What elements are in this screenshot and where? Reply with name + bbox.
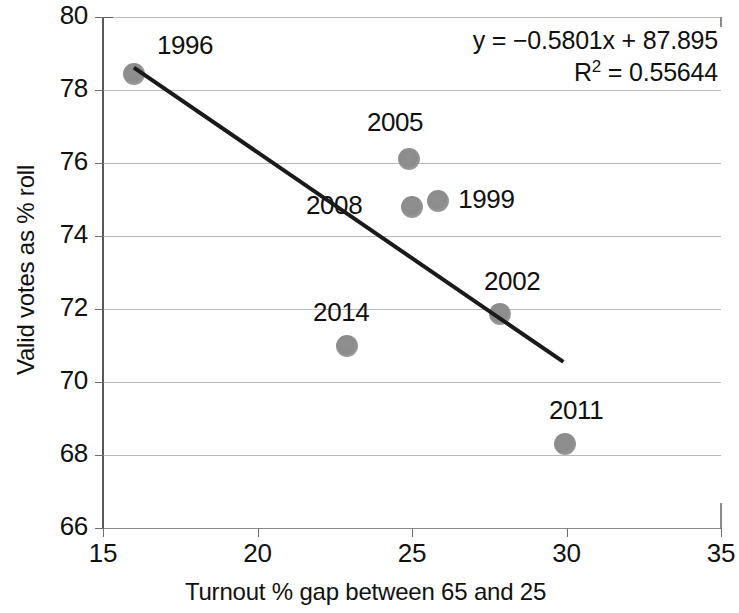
y-axis-title: Valid votes as % roll: [12, 140, 40, 400]
x-tick-label-35: 35: [681, 538, 739, 569]
x-tick-30: [567, 528, 568, 537]
gridline-y-80: [103, 17, 721, 18]
x-tick-25: [412, 528, 413, 537]
data-point-2011: [554, 433, 576, 455]
y-tick-label-68: 68: [30, 438, 88, 469]
data-point-1999: [427, 190, 449, 212]
regression-annotation: y = −0.5801x + 87.895 R2 = 0.55644: [473, 24, 718, 88]
plot-area: [103, 17, 721, 528]
x-tick-label-15: 15: [63, 538, 143, 569]
point-label-2014: 2014: [313, 297, 369, 328]
y-tick-label-78: 78: [30, 73, 88, 104]
point-label-2005: 2005: [367, 107, 423, 138]
plot-frame-right-bottom: [720, 503, 722, 528]
x-tick-label-30: 30: [527, 538, 607, 569]
gridline-y-74: [103, 236, 721, 237]
x-tick-label-20: 20: [218, 538, 298, 569]
gridline-y-72: [103, 309, 721, 310]
y-axis-top-cap: [103, 17, 113, 19]
y-tick-78: [95, 90, 104, 91]
x-tick-15: [103, 528, 104, 537]
gridline-y-70: [103, 382, 721, 383]
regression-equation: y = −0.5801x + 87.895: [473, 24, 718, 56]
point-label-1999: 1999: [458, 184, 514, 215]
data-point-2008: [401, 196, 423, 218]
x-tick-35: [721, 528, 722, 537]
y-tick-72: [95, 309, 104, 310]
r-squared-line: R2 = 0.55644: [473, 56, 718, 88]
x-tick-20: [258, 528, 259, 537]
gridline-y-78: [103, 90, 721, 91]
point-label-2008: 2008: [306, 190, 362, 221]
r-squared-exponent: 2: [592, 57, 601, 76]
point-label-1996: 1996: [157, 30, 213, 61]
y-tick-76: [95, 163, 104, 164]
gridline-y-68: [103, 455, 721, 456]
y-tick-80: [95, 17, 104, 18]
point-label-2002: 2002: [484, 266, 540, 297]
y-tick-label-80: 80: [30, 0, 88, 31]
x-tick-label-25: 25: [372, 538, 452, 569]
data-point-2014: [336, 335, 358, 357]
point-label-2011: 2011: [549, 395, 603, 426]
r-squared-value: = 0.55644: [601, 58, 718, 86]
y-tick-74: [95, 236, 104, 237]
plot-frame-right-top: [720, 17, 722, 27]
x-axis-title: Turnout % gap between 65 and 25: [0, 578, 731, 606]
y-tick-68: [95, 455, 104, 456]
data-point-2005: [398, 148, 420, 170]
data-point-2002: [489, 303, 511, 325]
y-tick-70: [95, 382, 104, 383]
data-point-1996: [123, 63, 145, 85]
y-axis-line: [102, 17, 104, 529]
r-squared-symbol: R: [574, 58, 592, 86]
